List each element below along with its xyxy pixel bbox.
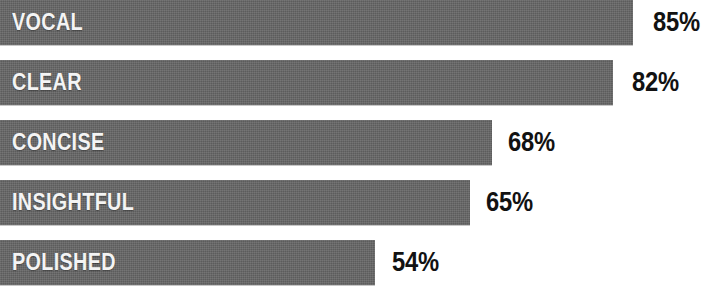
bar-row: VOCAL 85%	[0, 0, 703, 45]
bar-row: POLISHED 54%	[0, 240, 703, 285]
bar-category-label: CONCISE	[12, 120, 105, 165]
bar-clear	[0, 60, 613, 105]
bar-value-label: 85%	[653, 0, 700, 45]
bar-row: CLEAR 82%	[0, 60, 703, 105]
bar-value-label: 68%	[508, 120, 555, 165]
bar-category-label: INSIGHTFUL	[12, 180, 134, 225]
bar-category-label: VOCAL	[12, 0, 83, 45]
bar-vocal	[0, 0, 633, 45]
bar-category-label: POLISHED	[12, 240, 116, 285]
bar-category-label: CLEAR	[12, 60, 82, 105]
bar-value-label: 65%	[486, 180, 533, 225]
bar-value-label: 54%	[392, 240, 439, 285]
bar-row: INSIGHTFUL 65%	[0, 180, 703, 225]
horizontal-bar-chart: VOCAL 85% CLEAR 82% CONCISE 68% INSIGHTF…	[0, 0, 703, 298]
bar-row: CONCISE 68%	[0, 120, 703, 165]
bar-value-label: 82%	[632, 60, 679, 105]
